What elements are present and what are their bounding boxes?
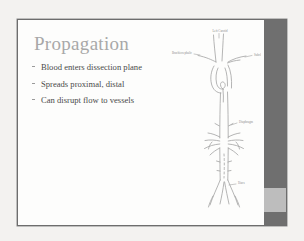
sidebar-accent-highlight	[264, 188, 286, 212]
label-brachiocephalic: Brachiocephalic	[172, 51, 193, 55]
page-title: Propagation	[34, 33, 129, 55]
label-iliacs: Iliacs	[238, 181, 245, 185]
bullet-text: Spreads proximal, distal	[41, 79, 124, 89]
slide-content-area: Propagation Blood enters dissection plan…	[18, 20, 286, 225]
bullet-text: Blood enters dissection plane	[41, 62, 142, 72]
list-item: Spreads proximal, distal	[30, 79, 180, 90]
bullet-text: Can disrupt flow to vessels	[41, 95, 134, 105]
presentation-slide: Propagation Blood enters dissection plan…	[17, 19, 287, 226]
list-item: Can disrupt flow to vessels	[30, 95, 180, 106]
list-item: Blood enters dissection plane	[30, 62, 180, 73]
bullet-marker-icon	[32, 83, 35, 84]
bullet-marker-icon	[32, 99, 35, 100]
slide-scan-page: Propagation Blood enters dissection plan…	[0, 0, 304, 241]
label-left-carotid: Left Carotid	[212, 29, 228, 33]
label-diaphragm: Diaphragm	[239, 120, 254, 124]
bullet-list: Blood enters dissection plane Spreads pr…	[30, 62, 180, 112]
bullet-marker-icon	[32, 66, 35, 67]
